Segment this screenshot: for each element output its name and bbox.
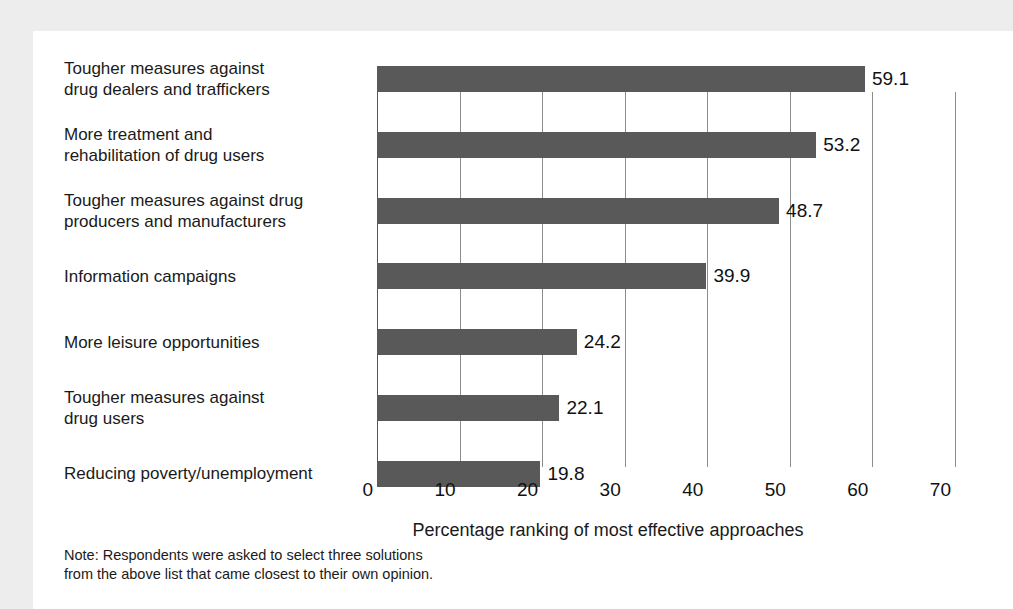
x-tick-label: 50 bbox=[726, 480, 786, 499]
bar-value-label: 22.1 bbox=[566, 395, 603, 421]
x-tick-label: 20 bbox=[478, 480, 538, 499]
bar-value-label: 39.9 bbox=[713, 263, 750, 289]
bar-row: Tougher measures against drug dealers an… bbox=[33, 66, 1013, 92]
bar-row: Information campaigns39.9 bbox=[33, 263, 1013, 289]
bar bbox=[377, 198, 779, 224]
bar-row: Tougher measures against drug users22.1 bbox=[33, 395, 1013, 421]
category-label: More treatment and rehabilitation of dru… bbox=[64, 124, 364, 166]
bar bbox=[377, 263, 706, 289]
category-label: Tougher measures against drug producers … bbox=[64, 190, 364, 232]
x-tick-label: 60 bbox=[808, 480, 868, 499]
bar-value-label: 53.2 bbox=[823, 132, 860, 158]
bar bbox=[377, 329, 577, 355]
bar-value-label: 59.1 bbox=[872, 66, 909, 92]
bar bbox=[377, 132, 816, 158]
category-label: More leisure opportunities bbox=[64, 332, 364, 353]
bar bbox=[377, 395, 559, 421]
bar-value-label: 48.7 bbox=[786, 198, 823, 224]
x-tick-label: 10 bbox=[396, 480, 456, 499]
chart-note: Note: Respondents were asked to select t… bbox=[64, 546, 433, 584]
category-label: Tougher measures against drug users bbox=[64, 387, 364, 429]
x-axis-title: Percentage ranking of most effective app… bbox=[33, 520, 1013, 541]
bar-row: More treatment and rehabilitation of dru… bbox=[33, 132, 1013, 158]
bar-chart: Tougher measures against drug dealers an… bbox=[33, 31, 1013, 609]
bar-row: More leisure opportunities24.2 bbox=[33, 329, 1013, 355]
category-label: Tougher measures against drug dealers an… bbox=[64, 58, 364, 100]
x-tick-label: 30 bbox=[561, 480, 621, 499]
bar-value-label: 24.2 bbox=[584, 329, 621, 355]
x-tick-label: 40 bbox=[643, 480, 703, 499]
bar-row: Tougher measures against drug producers … bbox=[33, 198, 1013, 224]
chart-card: Tougher measures against drug dealers an… bbox=[33, 31, 1013, 609]
category-label: Information campaigns bbox=[64, 266, 364, 287]
x-tick-label: 70 bbox=[891, 480, 951, 499]
bar bbox=[377, 66, 865, 92]
x-tick-label: 0 bbox=[313, 480, 373, 499]
